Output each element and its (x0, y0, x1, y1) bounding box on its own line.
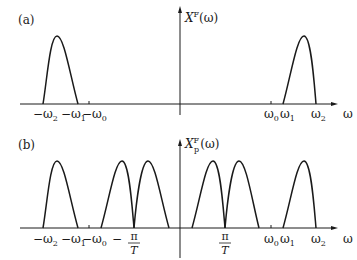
panel-b-lobe-5 (225, 161, 259, 228)
panel-b-lobe-2 (101, 161, 134, 228)
panel-a-y-axis-arrow-icon (178, 6, 182, 13)
panel-a-y-label: XF(ω) (184, 10, 218, 25)
panel-a-label-w1: ω1 (280, 107, 295, 123)
panel-b-label-pi-over-T: π T (219, 230, 231, 257)
svg-text:T: T (221, 244, 230, 257)
panel-b-lobe-6 (283, 161, 316, 228)
panel-b: (b) XFp(ω) ω −ω2 −ω1 −ω0 − π T π (18, 136, 353, 258)
svg-text:T: T (130, 244, 139, 257)
panel-a-lobe-negative (43, 36, 78, 104)
spectrum-diagram: (a) XF(ω) ω −ω2 −ω1 −ω0 ω0 ω1 ω2 (b) XFp… (0, 0, 357, 260)
panel-a-label-w2: ω2 (311, 107, 326, 123)
panel-b-label-neg-w0: −ω0 (82, 232, 107, 248)
panel-b-label-w2: ω2 (311, 232, 326, 248)
svg-text:π: π (221, 230, 228, 243)
panel-a-label-w0: ω0 (264, 107, 279, 123)
panel-a-tag: (a) (18, 13, 35, 27)
panel-a-label-neg-w0: −ω0 (82, 107, 107, 123)
panel-b-label-neg-w2: −ω2 (33, 232, 58, 248)
svg-text:−: − (112, 232, 122, 246)
panel-b-tag: (b) (18, 138, 35, 152)
panel-a-x-label: ω (343, 107, 353, 121)
panel-b-x-axis-arrow-icon (331, 226, 338, 230)
panel-b-y-label: XFp(ω) (184, 136, 219, 154)
panel-b-lobe-4 (192, 161, 225, 228)
panel-a-x-axis-arrow-icon (331, 102, 338, 106)
panel-a-label-neg-w2: −ω2 (33, 107, 58, 123)
panel-a: (a) XF(ω) ω −ω2 −ω1 −ω0 ω0 ω1 ω2 (18, 6, 353, 123)
panel-b-lobe-1 (43, 161, 78, 228)
panel-b-label-neg-pi-over-T: − π T (112, 230, 140, 257)
panel-b-label-w1: ω1 (280, 232, 295, 248)
panel-b-y-axis-arrow-icon (178, 139, 182, 146)
panel-b-label-w0: ω0 (264, 232, 279, 248)
panel-b-x-label: ω (343, 232, 353, 246)
panel-b-lobe-3 (134, 161, 169, 228)
panel-a-lobe-positive (283, 36, 316, 104)
svg-text:π: π (130, 230, 137, 243)
